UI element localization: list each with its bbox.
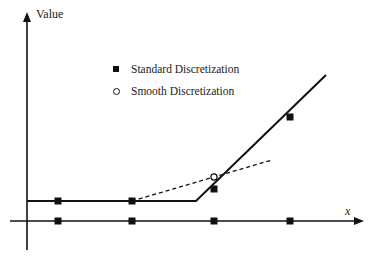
standard-curve-markers	[55, 114, 294, 205]
smooth-curve-marker	[211, 174, 217, 180]
plot-canvas	[0, 0, 377, 265]
filled-square-icon	[113, 66, 127, 72]
legend-item-standard: Standard Discretization	[113, 58, 239, 80]
x-axis	[10, 217, 364, 225]
legend-item-label: Standard Discretization	[127, 63, 239, 75]
discretization-figure: Value x Standard Discretization Smooth D…	[0, 0, 377, 265]
y-axis	[23, 12, 31, 250]
y-axis-label: Value	[36, 7, 63, 22]
open-circle-icon	[113, 88, 127, 95]
legend-item-label: Smooth Discretization	[127, 85, 234, 97]
legend: Standard Discretization Smooth Discretiz…	[113, 58, 239, 102]
x-axis-label: x	[345, 204, 350, 219]
legend-item-smooth: Smooth Discretization	[113, 80, 239, 102]
